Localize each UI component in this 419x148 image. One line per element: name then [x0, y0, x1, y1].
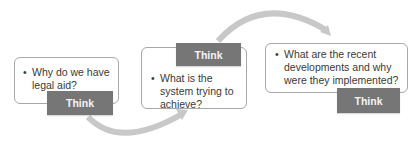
bullet-icon: •	[23, 66, 27, 79]
step-2-question: • What is the system trying to achieve?	[160, 72, 244, 111]
step-1-think-tag: Think	[47, 91, 113, 115]
step-3-question: • What are the recent developments and w…	[284, 48, 406, 87]
bullet-icon: •	[275, 48, 279, 61]
arrow-step2-to-step3	[218, 13, 326, 41]
bullet-icon: •	[151, 72, 155, 85]
step-3-think-tag: Think	[337, 88, 400, 113]
step-1-question: • Why do we have legal aid?	[32, 66, 116, 92]
step-2-think-tag: Think	[176, 43, 241, 66]
arrow-step1-to-step2	[88, 114, 182, 133]
